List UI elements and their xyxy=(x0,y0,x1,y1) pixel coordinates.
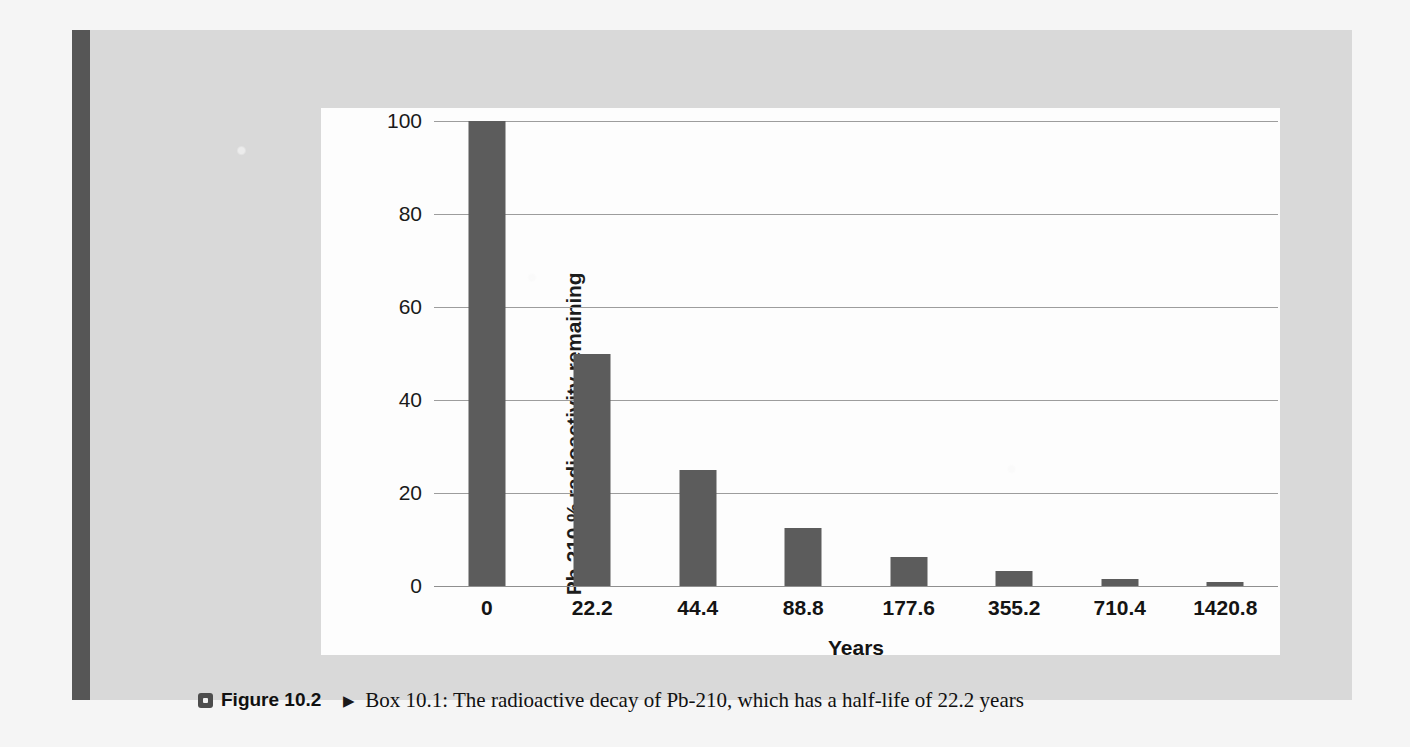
gridline xyxy=(434,586,1278,587)
figure-caption-text: Box 10.1: The radioactive decay of Pb-21… xyxy=(365,688,1024,713)
x-axis-title: Years xyxy=(434,636,1278,660)
y-tick-label: 80 xyxy=(399,202,422,226)
gridline xyxy=(434,400,1278,401)
x-tick-label: 88.8 xyxy=(783,596,824,620)
bar xyxy=(890,557,927,586)
bar xyxy=(1101,579,1138,586)
figure-panel: Pb-210 % radioactivity remaining 0204060… xyxy=(90,30,1352,700)
y-tick-label: 40 xyxy=(399,388,422,412)
gridline xyxy=(434,493,1278,494)
figure-caption: Figure 10.2 ▶ Box 10.1: The radioactive … xyxy=(198,686,1024,714)
y-tick-label: 20 xyxy=(399,481,422,505)
bar xyxy=(468,121,505,586)
x-tick-label: 710.4 xyxy=(1093,596,1146,620)
y-tick-label: 100 xyxy=(387,109,422,133)
chart-plate: Pb-210 % radioactivity remaining 0204060… xyxy=(321,108,1280,655)
gridline xyxy=(434,307,1278,308)
x-tick-label: 44.4 xyxy=(677,596,718,620)
bar xyxy=(996,571,1033,586)
plot-area: 020406080100 022.244.488.8177.6355.2710.… xyxy=(434,121,1278,586)
bar xyxy=(785,528,822,586)
x-tick-label: 355.2 xyxy=(988,596,1041,620)
bar xyxy=(679,470,716,586)
gridline xyxy=(434,121,1278,122)
bar xyxy=(1207,582,1244,586)
page-background: Pb-210 % radioactivity remaining 0204060… xyxy=(0,0,1410,747)
triangle-right-icon: ▶ xyxy=(343,693,355,708)
square-bullet-icon xyxy=(198,693,213,708)
x-tick-label: 22.2 xyxy=(572,596,613,620)
gridline xyxy=(434,214,1278,215)
book-spine-bar xyxy=(72,30,91,700)
x-tick-label: 1420.8 xyxy=(1193,596,1257,620)
figure-number-label: Figure 10.2 xyxy=(221,689,321,711)
y-tick-label: 60 xyxy=(399,295,422,319)
y-tick-label: 0 xyxy=(410,574,422,598)
x-tick-label: 177.6 xyxy=(882,596,935,620)
bar xyxy=(574,354,611,587)
x-tick-label: 0 xyxy=(481,596,493,620)
